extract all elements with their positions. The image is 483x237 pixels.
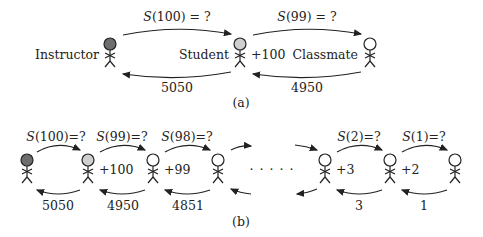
return-label: 5050 (161, 82, 193, 95)
chain-return-label: 3 (355, 200, 363, 213)
student-label: Student (179, 49, 229, 62)
chain-figure-instructor-icon (21, 154, 33, 183)
chain-return-label: 4950 (107, 200, 139, 213)
chain-annotation: +100 (99, 164, 133, 177)
chain-figure-icon (384, 154, 396, 183)
student-annotation: +100 (251, 49, 285, 62)
chain-annotation: +99 (164, 164, 190, 177)
caption-a: (a) (232, 97, 249, 110)
student-figure-icon (234, 38, 246, 67)
caption-b: (b) (232, 216, 250, 229)
forward-label: S(100) = ? (143, 11, 210, 24)
chain-return-label: 5050 (42, 200, 74, 213)
forward-arrow (123, 29, 231, 35)
chain-figure-icon (319, 154, 331, 183)
chain-annotation: +2 (401, 164, 419, 177)
ellipsis: · · · · · (250, 164, 295, 177)
return-arrow (253, 72, 361, 78)
chain-figure-icon (212, 154, 224, 183)
chain-return-label: 1 (420, 200, 428, 213)
instructor-figure-icon (104, 38, 116, 67)
chain-annotation: +3 (336, 164, 354, 177)
instructor-label: Instructor (35, 49, 99, 62)
forward-label: S(99) = ? (277, 11, 336, 24)
return-label: 4950 (291, 82, 323, 95)
chain-forward-label: S(1)=? (402, 131, 445, 144)
chain-forward-label: S(98)=? (161, 131, 212, 144)
forward-arrow (253, 29, 361, 35)
chain-forward-label: S(100)=? (26, 131, 85, 144)
chain-figure-icon (147, 154, 159, 183)
chain-return-label: 4851 (172, 200, 204, 213)
chain-figure-icon (449, 154, 461, 183)
return-arrow (123, 72, 231, 78)
classmate-figure-icon (364, 38, 376, 67)
chain-forward-label: S(2)=? (337, 131, 380, 144)
chain-figure-student-icon (82, 154, 94, 183)
classmate-label: Classmate (292, 49, 358, 62)
chain-forward-label: S(99)=? (96, 131, 147, 144)
